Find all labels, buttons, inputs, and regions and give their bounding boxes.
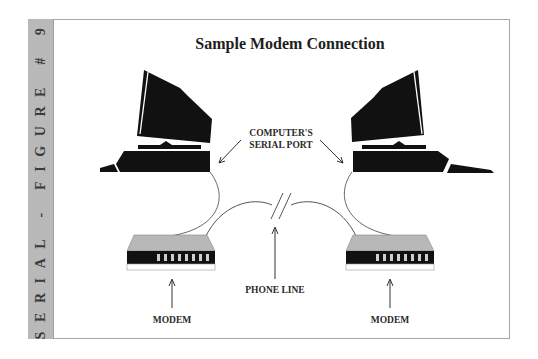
left-base-icon: [116, 151, 210, 172]
left-modem-icon: [127, 235, 215, 270]
serial-cables: [170, 172, 395, 236]
phone-line-label: PHONE LINE: [235, 284, 315, 296]
right-keyboard-icon: [447, 164, 494, 173]
left-monitor-stand-icon: [138, 141, 201, 149]
right-monitor-icon: [351, 70, 424, 142]
right-monitor-stand-icon: [362, 141, 426, 149]
right-modem-label: MODEM: [355, 314, 425, 326]
right-modem-icon: [346, 235, 434, 270]
serial-port-label-line1: COMPUTER'S: [236, 127, 326, 139]
left-computer-icon: [100, 70, 212, 172]
left-keyboard-icon: [100, 164, 118, 172]
left-monitor-icon: [137, 70, 212, 143]
serial-port-label: COMPUTER'S SERIAL PORT: [236, 127, 326, 151]
right-computer-icon: [351, 70, 494, 173]
diagram-canvas: [0, 0, 538, 359]
serial-port-label-line2: SERIAL PORT: [236, 139, 326, 151]
right-base-icon: [353, 151, 449, 172]
phone-line-arrow: [272, 227, 278, 279]
left-modem-label: MODEM: [137, 314, 207, 326]
phone-line: [205, 193, 357, 238]
